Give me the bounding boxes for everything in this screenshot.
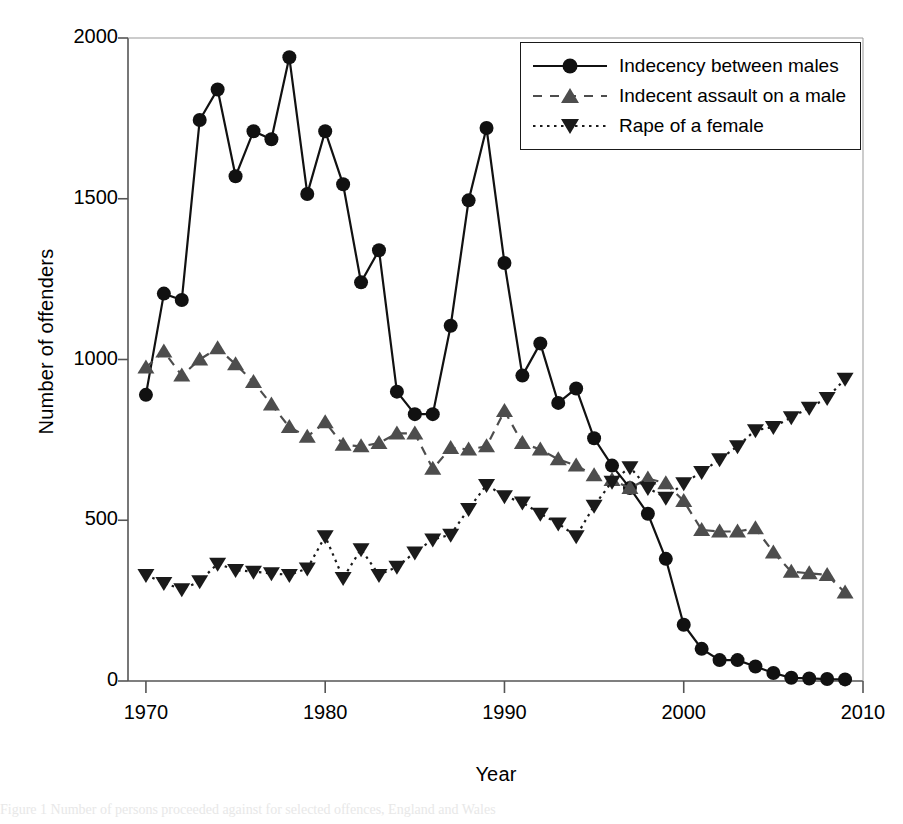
data-point <box>245 374 262 388</box>
legend-key-triangle-down-icon <box>531 115 609 137</box>
data-point <box>605 459 619 473</box>
legend-label: Indecency between males <box>609 55 839 77</box>
legend-item-indecent-assault-on-a-male[interactable]: Indecent assault on a male <box>531 81 846 111</box>
data-point <box>406 425 423 439</box>
legend-key-triangle-up-icon <box>531 85 609 107</box>
x-axis-title: Year <box>128 763 864 786</box>
x-tick-label: 1990 <box>464 701 544 724</box>
data-point <box>193 113 207 127</box>
legend-item-rape-of-a-female[interactable]: Rape of a female <box>531 111 846 141</box>
data-point <box>819 392 836 406</box>
caption-text: Figure 1 Number of persons proceeded aga… <box>0 802 496 817</box>
data-point <box>480 121 494 135</box>
data-point <box>460 503 477 517</box>
data-point <box>137 569 154 583</box>
data-point <box>191 352 208 366</box>
data-point <box>264 132 278 146</box>
data-point <box>139 388 153 402</box>
data-point <box>677 618 691 632</box>
y-tick-label: 1000 <box>48 347 118 370</box>
data-point <box>335 572 352 586</box>
data-point <box>317 414 334 428</box>
data-point <box>801 402 818 416</box>
data-point <box>784 671 798 685</box>
data-point <box>263 397 280 411</box>
data-point <box>497 256 511 270</box>
data-point <box>317 530 334 544</box>
data-point <box>551 396 565 410</box>
data-point <box>175 293 189 307</box>
data-point <box>693 522 710 536</box>
chart-legend: Indecency between males Indecent assault… <box>520 42 861 150</box>
y-tick-label: 0 <box>48 668 118 691</box>
data-point <box>173 583 190 597</box>
data-point <box>533 336 547 350</box>
data-point <box>514 497 531 511</box>
x-tick-label: 2000 <box>644 701 724 724</box>
data-point <box>550 451 567 465</box>
data-point <box>354 275 368 289</box>
y-tick-label: 1500 <box>48 186 118 209</box>
data-point <box>693 466 710 480</box>
data-point <box>587 431 601 445</box>
data-point <box>478 479 495 493</box>
series-rape-of-a-female <box>137 373 853 598</box>
data-point <box>657 475 674 489</box>
data-point <box>263 567 280 581</box>
legend-item-indecency-between-males[interactable]: Indecency between males <box>531 51 846 81</box>
data-point <box>837 585 854 599</box>
data-point <box>191 575 208 589</box>
data-point <box>442 440 459 454</box>
data-point <box>408 407 422 421</box>
data-point <box>514 435 531 449</box>
data-point <box>462 193 476 207</box>
data-point <box>657 492 674 506</box>
data-point <box>568 458 585 472</box>
x-tick-label: 1980 <box>285 701 365 724</box>
data-point <box>641 507 655 521</box>
data-point <box>820 672 834 686</box>
data-point <box>281 569 298 583</box>
data-point <box>747 520 764 534</box>
data-point <box>299 429 316 443</box>
data-point <box>748 660 762 674</box>
data-point <box>659 552 673 566</box>
x-tick-label: 2010 <box>823 701 903 724</box>
data-point <box>209 340 226 354</box>
data-point <box>695 642 709 656</box>
data-point <box>765 544 782 558</box>
chart-figure: Number of offenders Year 050010001500200… <box>0 0 903 824</box>
data-point <box>713 653 727 667</box>
data-point <box>496 403 513 417</box>
data-point <box>388 561 405 575</box>
data-point <box>424 534 441 548</box>
data-point <box>478 438 495 452</box>
data-point <box>729 440 746 454</box>
data-point <box>157 287 171 301</box>
data-point <box>209 558 226 572</box>
data-point <box>802 671 816 685</box>
data-point <box>711 453 728 467</box>
data-point <box>731 653 745 667</box>
data-point <box>444 319 458 333</box>
data-point <box>370 435 387 449</box>
data-point <box>300 187 314 201</box>
y-axis-title: Number of offenders <box>35 212 58 472</box>
series-indecent-assault-on-a-male <box>137 340 853 598</box>
y-tick-label: 500 <box>48 507 118 530</box>
data-point <box>336 177 350 191</box>
y-tick-label: 2000 <box>48 25 118 48</box>
data-point <box>155 577 172 591</box>
data-point <box>568 530 585 544</box>
figure-caption: Figure 1 Number of persons proceeded aga… <box>0 800 903 824</box>
data-point <box>372 243 386 257</box>
x-axis-ticks <box>146 681 863 693</box>
data-point <box>639 482 656 496</box>
data-point <box>496 490 513 504</box>
data-point <box>765 421 782 435</box>
data-point <box>586 467 603 481</box>
data-point <box>318 124 332 138</box>
data-point <box>569 381 583 395</box>
data-point <box>586 500 603 514</box>
data-point <box>515 369 529 383</box>
